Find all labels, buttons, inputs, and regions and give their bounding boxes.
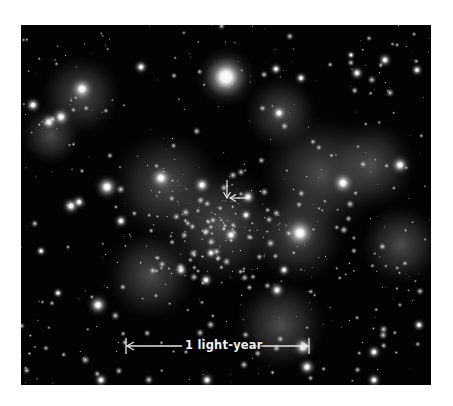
faint-star: [173, 56, 177, 60]
cluster-star: [266, 238, 276, 248]
faint-star: [311, 266, 313, 268]
faint-star: [52, 171, 54, 173]
faint-star: [285, 224, 288, 227]
faint-star: [392, 330, 397, 335]
faint-star: [225, 320, 227, 322]
cluster-star: [224, 240, 226, 242]
faint-star: [292, 48, 294, 50]
cluster-star: [222, 221, 225, 224]
cluster-star: [147, 213, 152, 218]
cluster-star: [218, 217, 221, 220]
faint-star: [274, 284, 276, 286]
faint-star: [242, 319, 244, 321]
cluster-star: [184, 187, 186, 189]
faint-star: [68, 143, 72, 147]
faint-star: [272, 344, 281, 353]
cluster-star: [171, 190, 173, 192]
star: [35, 245, 47, 257]
cluster-star: [215, 256, 221, 262]
star: [192, 175, 212, 195]
faint-star: [377, 120, 381, 124]
faint-star: [370, 263, 375, 268]
faint-star: [276, 296, 278, 298]
cluster-star: [279, 222, 281, 224]
cluster-star: [220, 281, 223, 284]
cluster-star: [211, 211, 213, 213]
faint-star: [196, 69, 202, 75]
faint-star: [406, 45, 408, 47]
faint-star: [308, 335, 310, 337]
faint-star: [102, 256, 104, 258]
faint-star: [423, 97, 425, 99]
faint-star: [231, 84, 233, 86]
faint-star: [279, 76, 281, 78]
faint-star: [52, 383, 54, 385]
faint-star: [27, 351, 32, 356]
faint-star: [411, 50, 413, 52]
faint-star: [111, 311, 120, 320]
faint-star: [317, 221, 319, 223]
star: [52, 287, 64, 299]
faint-star: [280, 280, 283, 283]
faint-star: [370, 218, 372, 220]
faint-star: [296, 246, 298, 248]
cluster-star: [231, 183, 234, 186]
faint-star: [392, 111, 395, 114]
faint-star: [23, 367, 31, 375]
faint-star: [252, 269, 254, 271]
faint-star: [196, 328, 205, 337]
faint-star: [148, 266, 157, 275]
faint-star: [354, 366, 361, 373]
star-field-image: 1 light-year: [21, 25, 431, 385]
faint-star: [409, 276, 411, 278]
faint-star: [189, 202, 191, 204]
faint-star: [407, 289, 410, 292]
faint-star: [164, 283, 167, 286]
faint-star: [347, 59, 355, 67]
faint-star: [40, 300, 44, 304]
faint-star: [174, 159, 176, 161]
cluster-star: [177, 180, 179, 182]
faint-star: [61, 40, 63, 42]
faint-star: [178, 185, 180, 187]
faint-star: [367, 75, 376, 84]
faint-star: [118, 165, 122, 169]
faint-star: [349, 320, 351, 322]
cluster-star: [170, 272, 173, 275]
faint-star: [373, 252, 377, 256]
faint-star: [278, 228, 280, 230]
faint-star: [408, 198, 410, 200]
faint-star: [240, 294, 243, 297]
faint-star: [104, 44, 106, 46]
cluster-star: [148, 228, 154, 234]
faint-star: [25, 38, 29, 42]
faint-star: [310, 276, 312, 278]
cluster-star: [238, 203, 240, 205]
faint-star: [231, 205, 235, 209]
star: [294, 71, 308, 85]
faint-star: [264, 282, 272, 290]
faint-star: [108, 38, 110, 40]
faint-star: [70, 97, 72, 99]
faint-star: [304, 245, 306, 247]
faint-star: [70, 48, 72, 50]
faint-star: [264, 253, 266, 255]
faint-star: [106, 152, 113, 159]
faint-star: [28, 105, 30, 107]
star: [412, 318, 426, 332]
faint-star: [35, 73, 37, 75]
cluster-star: [184, 274, 187, 277]
faint-star: [170, 142, 177, 149]
faint-star: [171, 137, 173, 139]
faint-star: [278, 317, 280, 319]
cluster-star: [177, 201, 179, 203]
faint-star: [257, 268, 259, 270]
faint-star: [38, 301, 40, 303]
faint-star: [116, 184, 126, 194]
faint-star: [74, 96, 78, 100]
faint-star: [93, 370, 100, 377]
cluster-star: [222, 257, 231, 266]
faint-star: [211, 25, 213, 26]
faint-star: [149, 26, 151, 28]
faint-star: [66, 204, 68, 206]
